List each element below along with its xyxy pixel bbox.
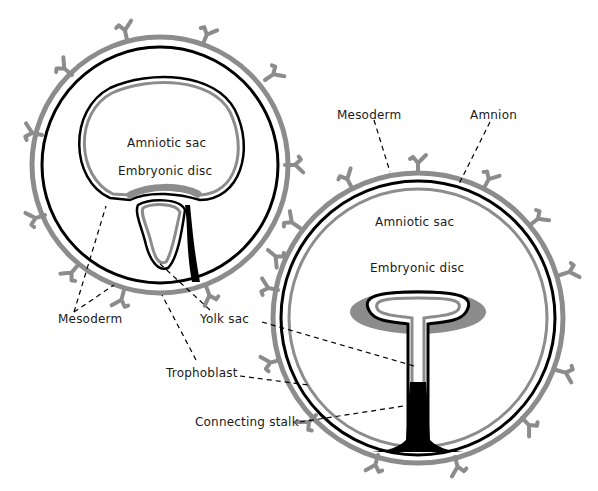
right-embryo-figure [259, 155, 580, 476]
connecting-stalk-label: Connecting stalk [195, 415, 299, 429]
right-mesoderm-label: Mesoderm [337, 108, 401, 122]
embryo-diagram [0, 0, 598, 491]
yolk-sac-label: Yolk sac [200, 312, 249, 326]
amnion-label: Amnion [470, 108, 517, 122]
right-amniotic-sac-label: Amniotic sac [375, 215, 454, 229]
left-embryonic-disc-label: Embryonic disc [118, 164, 212, 178]
left-mesoderm-label: Mesoderm [58, 312, 122, 326]
left-amniotic-sac-label: Amniotic sac [127, 136, 206, 150]
left-connecting-stalk [185, 205, 200, 282]
trophoblast-label: Trophoblast [166, 366, 238, 380]
right-embryonic-disc-label: Embryonic disc [370, 261, 464, 275]
